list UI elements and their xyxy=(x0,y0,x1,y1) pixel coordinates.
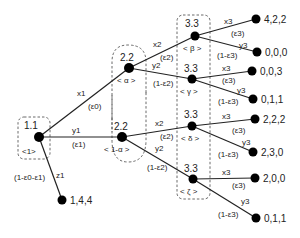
leaf-zeta-x3-payoff: 2,0,0 xyxy=(263,173,286,184)
leaf-z1-payoff: 1,4,4 xyxy=(70,195,93,206)
gamma-label: 3.3 xyxy=(184,63,198,74)
node-beta xyxy=(191,32,200,41)
zeta-belief: < ζ > xyxy=(180,187,198,196)
alpha-y2-action: y2 xyxy=(152,61,161,70)
beta-belief: < β > xyxy=(183,44,202,53)
alpha-x2-action: x2 xyxy=(153,40,162,49)
edge-zeta-x3 xyxy=(193,178,255,179)
alpha-y2-prob: (1-ε2) xyxy=(153,79,174,88)
alpha-x2-prob: (ε2) xyxy=(160,53,174,62)
gamma-x3-prob: (ε3) xyxy=(222,76,236,85)
root-label: 1.1 xyxy=(24,120,38,131)
zeta-x3-prob: (ε3) xyxy=(232,181,246,190)
leaf-zeta-y3-payoff: 0,1,1 xyxy=(264,213,287,224)
alpha-label: 2.2 xyxy=(120,52,134,63)
root-belief: <1> xyxy=(22,147,36,156)
leaf-beta-x3-payoff: 4,2,2 xyxy=(264,14,287,25)
edge-alpha-y2 xyxy=(129,68,192,79)
beta-y3-prob: (1-ε3) xyxy=(217,51,238,60)
oma-x2-action: x2 xyxy=(155,119,164,128)
oma-x2-prob: (ε2) xyxy=(160,132,174,141)
beta-x3-action: x3 xyxy=(224,17,233,26)
leaf-gamma-y3-payoff: 0,1,1 xyxy=(261,94,284,105)
leaf-beta-y3-payoff: 0,0,0 xyxy=(265,47,288,58)
zeta-y3-action: y3 xyxy=(241,197,250,206)
leaf-zeta-y3 xyxy=(252,214,261,223)
leaf-zeta-x3 xyxy=(251,174,260,183)
zeta-x3-action: x3 xyxy=(222,168,231,177)
delta-y3-prob: (1-ε3) xyxy=(218,150,239,159)
delta-x3-prob: (ε3) xyxy=(232,126,246,135)
delta-y3-action: y3 xyxy=(242,138,251,147)
delta-label: 3.3 xyxy=(184,109,198,120)
node-root xyxy=(34,132,44,142)
oma-belief: < 1-α > xyxy=(104,145,130,154)
beta-x3-prob: (ε3) xyxy=(231,29,245,38)
node-alpha xyxy=(124,63,134,73)
gamma-y3-prob: (1-ε3) xyxy=(218,97,239,106)
gamma-belief: < γ > xyxy=(180,87,198,96)
node-delta xyxy=(188,122,197,131)
game-tree-diagram: 1.1 <1> 2.2 < α > 2.2 < 1-α > 3.3 < β > … xyxy=(0,0,300,238)
zeta-label: 3.3 xyxy=(184,163,198,174)
leaf-delta-x3-payoff: 2,2,2 xyxy=(263,114,286,125)
leaf-gamma-y3 xyxy=(249,95,258,104)
alpha-belief: < α > xyxy=(117,76,136,85)
z1-action: z1 xyxy=(56,171,65,180)
leaf-delta-x3 xyxy=(251,115,260,124)
leaf-gamma-x3-payoff: 0,0,3 xyxy=(260,66,283,77)
leaf-gamma-x3 xyxy=(248,67,257,76)
node-one-minus-alpha xyxy=(117,132,127,142)
leaf-z1 xyxy=(58,196,67,205)
leaf-delta-y3 xyxy=(249,148,258,157)
z1-prob: (1-ε0-ε1) xyxy=(14,173,45,182)
oma-y2-prob: (1-ε2) xyxy=(147,163,168,172)
oma-label: 2.2 xyxy=(114,121,128,132)
gamma-y3-action: y3 xyxy=(237,86,246,95)
leaf-beta-x3 xyxy=(252,15,261,24)
beta-y3-action: y3 xyxy=(239,41,248,50)
leaf-delta-y3-payoff: 2,3,0 xyxy=(261,147,284,158)
edge-beta-y3 xyxy=(195,36,257,52)
oma-y2-action: y2 xyxy=(155,144,164,153)
edge-z1 xyxy=(39,137,62,200)
leaf-beta-y3 xyxy=(253,48,262,57)
x1-prob: (ε0) xyxy=(88,102,102,111)
y1-prob: (ε1) xyxy=(72,140,86,149)
beta-label: 3.3 xyxy=(185,18,199,29)
x1-action: x1 xyxy=(77,89,86,98)
node-zeta xyxy=(189,175,198,184)
zeta-y3-prob: (1-ε3) xyxy=(218,210,239,219)
y1-action: y1 xyxy=(72,126,81,135)
delta-x3-action: x3 xyxy=(222,112,231,121)
gamma-x3-action: x3 xyxy=(222,64,231,73)
delta-belief: < δ > xyxy=(181,134,200,143)
node-gamma xyxy=(188,75,197,84)
